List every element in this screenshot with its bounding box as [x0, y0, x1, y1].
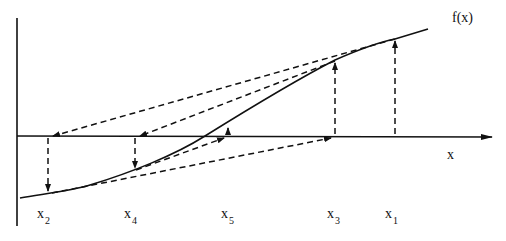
svg-text:x: x: [327, 206, 334, 221]
secant-x3-to-x4: [140, 61, 335, 136]
point-label-x3: x 3: [327, 206, 340, 226]
point-label-x2: x 2: [37, 206, 50, 226]
svg-text:x: x: [221, 206, 228, 221]
point-label-x1: x 1: [385, 206, 398, 226]
svg-text:5: 5: [229, 215, 234, 226]
secant-x1-to-x2: [53, 39, 395, 136]
x-axis: [17, 136, 492, 137]
function-curve: [20, 29, 428, 198]
svg-text:x: x: [385, 206, 392, 221]
svg-text:x: x: [124, 206, 131, 221]
x-axis-label: x: [447, 147, 454, 162]
secant-x2-to-x3: [52, 138, 331, 193]
projection-lines: [48, 41, 395, 191]
secant-x4-to-x5: [136, 138, 224, 170]
svg-text:4: 4: [132, 215, 137, 226]
svg-text:x: x: [37, 206, 44, 221]
svg-text:2: 2: [45, 215, 50, 226]
point-label-x5: x 5: [221, 206, 234, 226]
point-label-x4: x 4: [124, 206, 137, 226]
secant-method-diagram: f(x) x x 2 x 4 x 5 x 3 x 1: [0, 0, 506, 241]
secant-lines: [52, 39, 395, 193]
function-label: f(x): [452, 10, 473, 26]
svg-text:3: 3: [335, 215, 340, 226]
svg-text:1: 1: [393, 215, 398, 226]
